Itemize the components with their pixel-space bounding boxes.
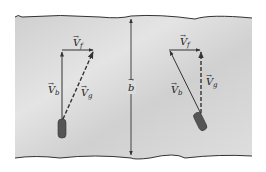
width-b-arrow-accent: → — [128, 76, 134, 84]
svg-text:g: g — [88, 92, 93, 100]
svg-text:→: → — [171, 80, 177, 88]
svg-text:g: g — [213, 81, 218, 89]
svg-text:b: b — [55, 89, 60, 97]
river-crossing-diagram: b → V f → V b → V g → V f → V b → V g → — [0, 0, 266, 172]
left-boat — [58, 119, 66, 138]
svg-text:b: b — [178, 89, 183, 97]
svg-text:→: → — [180, 32, 186, 40]
svg-text:→: → — [206, 72, 212, 80]
svg-text:→: → — [48, 80, 54, 88]
svg-text:→: → — [73, 33, 79, 41]
svg-text:→: → — [81, 83, 87, 91]
